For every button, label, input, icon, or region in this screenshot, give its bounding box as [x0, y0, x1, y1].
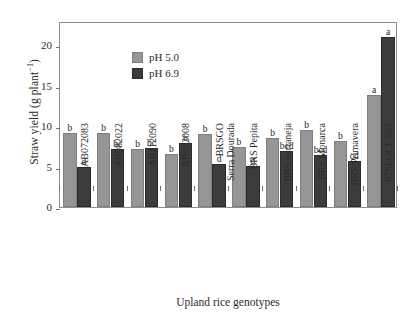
bar-significance-label: b: [338, 131, 343, 142]
x-tick-label-line1: AB112090: [147, 123, 158, 167]
x-tick: [127, 186, 128, 191]
bar-significance-label: b: [101, 123, 106, 134]
x-tick-label: BRS Pepita: [249, 123, 260, 213]
x-tick-label: AB082022: [114, 123, 125, 213]
x-tick-label: AB072083: [80, 123, 91, 213]
y-tick-mark: [56, 209, 60, 210]
y-axis-title-tail: ): [28, 59, 40, 63]
bar-chart-figure: Straw yield (g plant−1) 05101520 bdbbcbb…: [0, 0, 416, 321]
x-tick-label-line1: AB062008: [180, 123, 191, 167]
x-tick-label-line1: BRSGO: [214, 123, 225, 156]
bar[interactable]: b: [63, 133, 77, 207]
x-tick-label: BRS Monarca: [317, 123, 328, 213]
legend-label-ph5: pH 5.0: [149, 51, 179, 63]
bar-significance-label: b: [270, 128, 275, 139]
legend-item: pH 5.0: [132, 50, 179, 64]
y-axis-title-exponent: −1: [26, 63, 35, 72]
legend-label-ph69: pH 6.9: [149, 67, 179, 79]
x-tick-label-line1: BRS Sertaneja: [282, 123, 293, 182]
legend-swatch-ph5: [132, 52, 143, 63]
bar-significance-label: b: [237, 137, 242, 148]
bar[interactable]: a: [367, 95, 381, 207]
bar-significance-label: b: [304, 120, 309, 131]
bar[interactable]: b: [131, 149, 145, 207]
y-tick-label: 10: [32, 120, 52, 132]
x-tick: [59, 186, 60, 191]
x-tick: [296, 186, 297, 191]
x-tick-label: BRS Primavera: [350, 123, 361, 213]
bar-significance-label: a: [386, 27, 390, 38]
legend: pH 5.0 pH 6.9: [132, 50, 179, 82]
x-axis-title: Upland rice genotypes: [59, 296, 397, 308]
x-tick: [262, 186, 263, 191]
x-tick-label-line1: AB072083: [79, 123, 90, 167]
x-tick: [160, 186, 161, 191]
bar[interactable]: b: [198, 134, 212, 207]
bar[interactable]: b: [266, 138, 280, 207]
x-tick-label-line1: 07SEQCL 563: [383, 123, 394, 182]
y-tick-label: 5: [32, 161, 52, 173]
bar[interactable]: b: [300, 130, 314, 207]
x-tick: [194, 186, 195, 191]
bar[interactable]: b: [334, 141, 348, 207]
y-tick-label: 15: [32, 80, 52, 92]
bar-significance-label: b: [203, 124, 208, 135]
bar-significance-label: b: [68, 123, 73, 134]
x-tick: [93, 186, 94, 191]
x-tick-label-line1: BRS Monarca: [316, 123, 327, 180]
x-tick: [363, 186, 364, 191]
bar-significance-label: a: [372, 85, 376, 96]
bar-significance-label: b: [135, 139, 140, 150]
x-tick-label-line1: BRS Primavera: [349, 123, 360, 186]
bar[interactable]: b: [165, 154, 179, 207]
x-tick-label-line2: Serra Dourada: [226, 123, 237, 224]
bar[interactable]: b: [97, 133, 111, 207]
x-tick-label: AB112090: [148, 123, 159, 213]
legend-item: pH 6.9: [132, 66, 179, 80]
x-tick-label-line1: BRS Pepita: [248, 123, 259, 169]
x-tick-label: AB062008: [181, 123, 192, 213]
x-tick-label: BRS Sertaneja: [283, 123, 294, 213]
bar-significance-label: b: [169, 144, 174, 155]
x-tick-label-line1: AB082022: [113, 123, 124, 167]
x-tick-label: 07SEQCL 563: [384, 123, 395, 213]
x-tick-label: BRSGOSerra Dourada: [215, 123, 236, 213]
x-tick: [228, 186, 229, 191]
legend-swatch-ph69: [132, 68, 143, 79]
x-tick: [397, 186, 398, 191]
y-tick-label: 20: [32, 39, 52, 51]
y-tick-label: 0: [32, 201, 52, 213]
x-tick: [329, 186, 330, 191]
